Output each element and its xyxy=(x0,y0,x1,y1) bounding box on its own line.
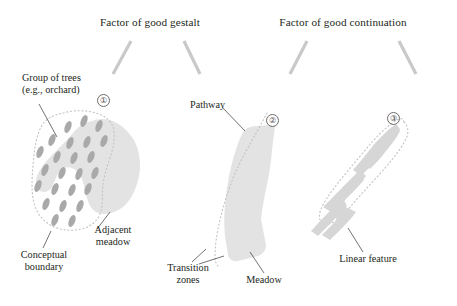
connector-gestalt-right xyxy=(184,41,200,74)
label-pathway: Pathway xyxy=(190,99,225,111)
panel-3-graphic xyxy=(311,119,408,252)
adjacent-meadow-shape xyxy=(36,119,140,214)
label-adjacent-meadow-line2: meadow xyxy=(80,236,146,248)
connector-strokes xyxy=(113,41,416,74)
leader-transition-zone-a xyxy=(192,249,206,262)
leader-linear-feature xyxy=(348,228,363,252)
label-group-of-trees-line2: (e.g., orchard) xyxy=(22,84,80,96)
leader-pathway xyxy=(222,107,245,131)
panel-3-number: ③ xyxy=(387,112,400,125)
label-adjacent-meadow-line1: Adjacent xyxy=(80,224,146,236)
label-conceptual-boundary-line2: boundary xyxy=(6,261,82,273)
connector-gestalt-left xyxy=(113,41,131,74)
label-linear-feature: Linear feature xyxy=(325,253,411,265)
connector-continuation-right xyxy=(399,41,416,74)
meadow-band-shape xyxy=(224,125,275,261)
tree-ellipse xyxy=(41,197,51,211)
label-conceptual-boundary-line1: Conceptual xyxy=(6,249,82,261)
connector-continuation-left xyxy=(290,41,307,74)
tree-ellipse xyxy=(50,213,60,227)
linear-feature-bars xyxy=(311,124,400,244)
panel-2-graphic xyxy=(192,107,275,273)
panel-2-number: ② xyxy=(266,114,279,127)
leader-group-of-trees xyxy=(39,104,57,137)
label-transition-zones-line2: zones xyxy=(152,274,224,286)
tree-ellipse xyxy=(58,199,68,213)
bar-1 xyxy=(353,124,400,176)
tree-ellipse xyxy=(67,214,77,228)
label-transition-zones-line1: Transition xyxy=(152,262,224,274)
label-group-of-trees-line1: Group of trees xyxy=(22,72,81,84)
label-meadow: Meadow xyxy=(233,274,295,286)
gestalt-continuation-figure: Factor of good gestalt Factor of good co… xyxy=(0,0,457,306)
tree-ellipse xyxy=(63,120,73,134)
tree-ellipse xyxy=(67,183,77,197)
tree-ellipse xyxy=(35,145,45,159)
tree-ellipse xyxy=(75,199,85,213)
leader-conceptual-boundary xyxy=(43,231,51,248)
panel-1-number: ① xyxy=(97,94,110,107)
